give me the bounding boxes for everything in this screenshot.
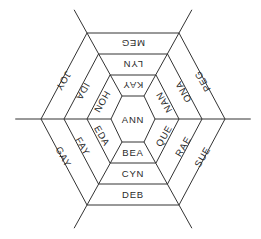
label-ring1-kay: KAY — [123, 80, 144, 91]
label-ring2-ida: IDA — [74, 81, 93, 102]
spoke-line — [74, 142, 122, 228]
label-ring1-hon: HON — [92, 89, 113, 115]
label-ring3-peg: PEG — [192, 69, 213, 94]
label-ring2-lyn: LYN — [123, 59, 143, 70]
label-ring1-eda: EDA — [92, 124, 112, 148]
label-ring2-rae: RAE — [173, 134, 193, 158]
label-ring1-que: QUE — [153, 123, 174, 148]
label-ring3-gay: GAY — [53, 145, 73, 169]
label-ring1-nan: NAN — [153, 90, 174, 115]
web-diagram: ANNKAYNANQUEBEAEDAHONLYNONARAECYNFAYIDAM… — [0, 0, 261, 239]
spoke-line — [74, 10, 122, 96]
label-ring2-cyn: CYN — [122, 168, 144, 179]
hexagon-word-web: ANNKAYNANQUEBEAEDAHONLYNONARAECYNFAYIDAM… — [0, 0, 261, 239]
spoke-line — [144, 142, 192, 228]
spoke-line — [144, 10, 192, 96]
label-ring1-bea: BEA — [122, 147, 143, 158]
label-ring2-fay: FAY — [73, 135, 92, 158]
label-ring3-deb: DEB — [122, 189, 144, 200]
label-center: ANN — [122, 114, 144, 125]
label-ring2-ona: ONA — [173, 79, 194, 104]
label-ring3-meg: MEG — [121, 38, 145, 49]
